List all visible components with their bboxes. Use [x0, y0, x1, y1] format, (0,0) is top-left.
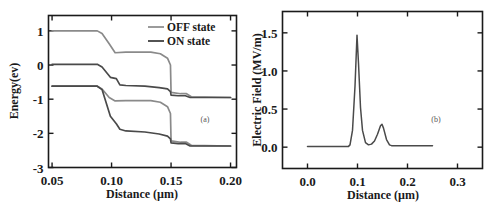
panel-a-ytick-label: -1 [33, 92, 44, 107]
panel-b-electric-field-plot: 0.00.10.20.30.00.51.01.5 Electric Field … [250, 0, 499, 204]
panel-b-tick-labels: 0.00.10.20.30.00.51.01.5 [261, 26, 466, 189]
panel-b-x-axis-title: Distance (µm) [347, 188, 419, 202]
panel-a-energy-band-diagram: 0.050.100.150.2010-1-2-3 Energy(ev) Dist… [0, 0, 250, 204]
panel-a-series-line [52, 64, 230, 97]
panel-b-xtick-label: 0.2 [399, 174, 415, 189]
panel-a-xtick-label: 0.15 [160, 173, 183, 188]
panel-b-xtick-label: 0.3 [449, 174, 466, 189]
panel-a-ytick-label: -3 [33, 161, 44, 176]
panel-a-ytick-label: 1 [37, 24, 44, 39]
panel-a-xtick-label: 0.05 [41, 173, 64, 188]
panel-a-tick-labels: 0.050.100.150.2010-1-2-3 [33, 24, 242, 188]
panel-b-curves [308, 35, 433, 146]
panel-a-x-axis-title: Distance (µm) [106, 187, 178, 201]
legend-label-off-state: OFF state [167, 21, 215, 33]
panel-a-y-axis-title: Energy(ev) [7, 63, 21, 120]
panel-a-xtick-label: 0.20 [219, 173, 242, 188]
panel-a-svg: 0.050.100.150.2010-1-2-3 Energy(ev) Dist… [0, 0, 250, 204]
panel-b-plot-frame [283, 12, 483, 169]
panel-b-xtick-label: 0.1 [349, 174, 365, 189]
panel-b-svg: 0.00.10.20.30.00.51.01.5 Electric Field … [250, 0, 499, 204]
panel-a-ytick-label: -2 [33, 126, 44, 141]
legend-label-on-state: ON state [167, 35, 210, 47]
panel-a-ytick-label: 0 [37, 58, 44, 73]
panel-b-series-line [308, 35, 433, 146]
panel-a-curves [52, 31, 230, 146]
panel-b-xtick-label: 0.0 [299, 174, 315, 189]
panel-a-xtick-label: 0.10 [100, 173, 123, 188]
panel-a-legend: OFF state ON state [148, 21, 215, 47]
panel-b-tag: (b) [431, 115, 441, 124]
panel-a-tag: (a) [201, 115, 210, 124]
panel-b-y-axis-title: Electric Field (MV/m) [250, 33, 264, 146]
figure-container: 0.050.100.150.2010-1-2-3 Energy(ev) Dist… [0, 0, 499, 204]
panel-b-ticks [283, 12, 483, 169]
